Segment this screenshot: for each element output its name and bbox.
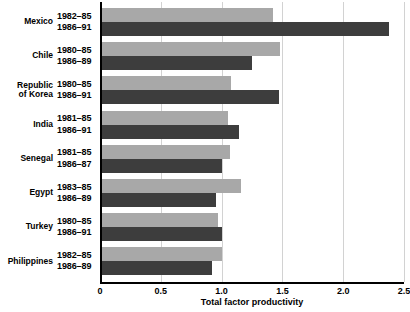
- country-name: Senegal: [0, 154, 57, 164]
- country-name-line: Turkey: [0, 222, 53, 232]
- period-labels: 1980–851986–91: [57, 79, 96, 102]
- bar-fill: [100, 22, 389, 36]
- period-label: 1982–85: [57, 250, 96, 262]
- x-tick-label: 2.0: [337, 286, 350, 296]
- bar-mexico-later: [100, 22, 389, 36]
- period-label: 1983–85: [57, 182, 96, 194]
- bar-egypt-later: [100, 193, 216, 207]
- period-label: 1981–85: [57, 113, 96, 125]
- x-axis-title: Total factor productivity: [100, 297, 404, 307]
- category-label-india: India1981–851986–91: [0, 111, 96, 139]
- plot-area: [100, 2, 404, 282]
- country-name: Republicof Korea: [0, 81, 57, 100]
- bar-fill: [100, 179, 241, 193]
- bar-fill: [100, 56, 252, 70]
- bar-republic-of-korea-later: [100, 90, 279, 104]
- bar-fill: [100, 193, 216, 207]
- bar-philippines-earlier: [100, 247, 222, 261]
- period-label: 1986–89: [57, 261, 96, 273]
- category-label-republic-of-korea: Republicof Korea1980–851986–91: [0, 76, 96, 104]
- bar-fill: [100, 213, 218, 227]
- period-label: 1980–85: [57, 79, 96, 91]
- bar-fill: [100, 42, 280, 56]
- country-name-line: Senegal: [0, 154, 53, 164]
- period-label: 1980–85: [57, 216, 96, 228]
- country-name-line: Egypt: [0, 188, 53, 198]
- category-label-chile: Chile1980–851986–89: [0, 42, 96, 70]
- bar-fill: [100, 227, 222, 241]
- bar-fill: [100, 90, 279, 104]
- category-label-mexico: Mexico1982–851986–91: [0, 8, 96, 36]
- period-labels: 1982–851986–89: [57, 250, 96, 273]
- period-labels: 1980–851986–91: [57, 216, 96, 239]
- bar-fill: [100, 125, 239, 139]
- bar-mexico-earlier: [100, 8, 273, 22]
- period-labels: 1983–851986–89: [57, 182, 96, 205]
- country-name-line: India: [0, 120, 53, 130]
- gridline: [282, 2, 283, 282]
- country-name: Philippines: [0, 257, 57, 267]
- country-name: India: [0, 120, 57, 130]
- y-axis-line: [100, 2, 102, 282]
- x-tick-label: 1.5: [276, 286, 289, 296]
- period-labels: 1980–851986–89: [57, 45, 96, 68]
- bar-india-earlier: [100, 111, 228, 125]
- x-tick-label: 0: [97, 286, 102, 296]
- x-tick-label: 1.0: [215, 286, 228, 296]
- bar-turkey-earlier: [100, 213, 218, 227]
- period-labels: 1981–851986–91: [57, 113, 96, 136]
- category-label-philippines: Philippines1982–851986–89: [0, 247, 96, 275]
- period-label: 1986–89: [57, 56, 96, 68]
- period-label: 1980–85: [57, 45, 96, 57]
- category-label-turkey: Turkey1980–851986–91: [0, 213, 96, 241]
- bar-fill: [100, 8, 273, 22]
- category-label-senegal: Senegal1981–851986–87: [0, 145, 96, 173]
- period-labels: 1982–851986–91: [57, 11, 96, 34]
- bar-chile-earlier: [100, 42, 280, 56]
- period-label: 1982–85: [57, 11, 96, 23]
- period-labels: 1981–851986–87: [57, 147, 96, 170]
- category-label-egypt: Egypt1983–851986–89: [0, 179, 96, 207]
- bar-fill: [100, 111, 228, 125]
- country-name-line: Chile: [0, 51, 53, 61]
- country-name-line: of Korea: [0, 90, 53, 100]
- bar-fill: [100, 145, 230, 159]
- bar-fill: [100, 247, 222, 261]
- country-name: Turkey: [0, 222, 57, 232]
- x-tick-label: 2.5: [398, 286, 410, 296]
- gridline: [343, 2, 344, 282]
- bar-senegal-earlier: [100, 145, 230, 159]
- country-name: Egypt: [0, 188, 57, 198]
- bar-philippines-later: [100, 261, 212, 275]
- period-label: 1986–87: [57, 159, 96, 171]
- bar-egypt-earlier: [100, 179, 241, 193]
- bar-republic-of-korea-earlier: [100, 76, 231, 90]
- bar-india-later: [100, 125, 239, 139]
- period-label: 1986–91: [57, 125, 96, 137]
- country-name: Mexico: [0, 17, 57, 27]
- x-axis-line: [100, 282, 404, 284]
- bar-chile-later: [100, 56, 252, 70]
- bar-fill: [100, 159, 222, 173]
- bar-fill: [100, 261, 212, 275]
- country-name-line: Philippines: [0, 257, 53, 267]
- country-name-line: Mexico: [0, 17, 53, 27]
- x-tick-label: 0.5: [155, 286, 168, 296]
- period-label: 1986–91: [57, 22, 96, 34]
- period-label: 1986–91: [57, 227, 96, 239]
- category-label-column: Mexico1982–851986–91Chile1980–851986–89R…: [0, 0, 96, 282]
- bar-fill: [100, 76, 231, 90]
- gridline: [404, 2, 405, 282]
- country-name: Chile: [0, 51, 57, 61]
- period-label: 1986–91: [57, 90, 96, 102]
- bar-senegal-later: [100, 159, 222, 173]
- bar-turkey-later: [100, 227, 222, 241]
- period-label: 1986–89: [57, 193, 96, 205]
- period-label: 1981–85: [57, 147, 96, 159]
